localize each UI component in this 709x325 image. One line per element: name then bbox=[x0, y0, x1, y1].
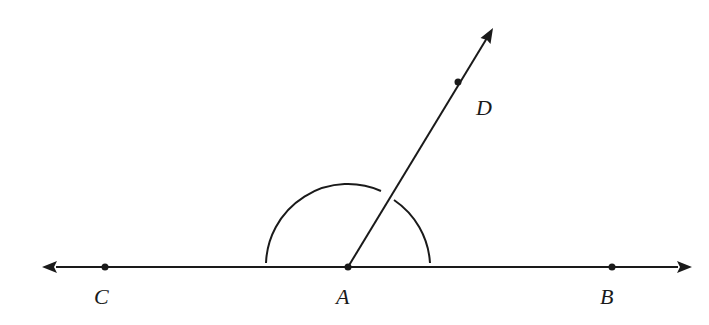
angle-arc-right bbox=[394, 200, 430, 263]
angle-arc-left bbox=[266, 184, 381, 263]
label-c: C bbox=[94, 286, 109, 308]
point-d bbox=[455, 79, 462, 86]
point-c bbox=[102, 264, 109, 271]
ray-arrowhead-icon bbox=[481, 28, 494, 44]
left-arrowhead-icon bbox=[42, 261, 57, 273]
label-d: D bbox=[476, 97, 492, 119]
ray-ad bbox=[348, 38, 487, 267]
label-b: B bbox=[600, 286, 613, 308]
point-a bbox=[345, 264, 352, 271]
label-a: A bbox=[336, 286, 349, 308]
geometry-diagram bbox=[0, 0, 709, 325]
point-b bbox=[609, 264, 616, 271]
right-arrowhead-icon bbox=[677, 261, 692, 273]
